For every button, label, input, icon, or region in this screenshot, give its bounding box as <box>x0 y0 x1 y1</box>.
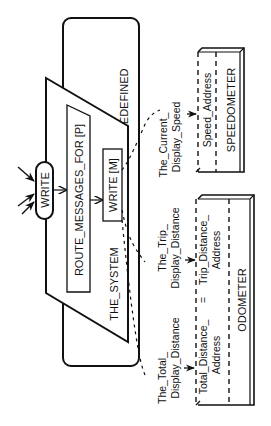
diagram-canvas: PREDEFINED THE_SYSTEM ROUTE_MESSAGES_FOR… <box>0 0 271 426</box>
the-system-label: THE_SYSTEM <box>108 247 120 320</box>
speedometer-label: SPEEDOMETER <box>225 68 237 152</box>
odometer-label: ODOMETER <box>236 268 248 332</box>
flow-current-speed: The_Current_ Display_Speed <box>157 102 196 178</box>
write-entry-label: WRITE <box>39 172 51 207</box>
write-m-label: WRITE [M] <box>107 158 119 212</box>
total-distance-field-line2: Address <box>210 336 222 375</box>
total-distance-field-line1: Total_Distance_ <box>197 319 209 394</box>
flow-total-distance: The_Total_ Display_Distance <box>156 317 194 404</box>
speed-address-field: Speed_Address <box>201 73 213 148</box>
flow-label-line1: The_Trip_ <box>156 224 168 272</box>
flow-label-line1: The_Total_ <box>156 352 168 404</box>
odometer-separator: = <box>197 297 209 303</box>
write-entry-node: WRITE <box>36 162 53 219</box>
flow-trip-distance: The_Trip_ Display_Distance <box>156 207 195 288</box>
odometer-device: Total_Distance_ Address = Trip_Distance_… <box>196 195 254 405</box>
route-messages-label: ROUTE_MESSAGES_FOR [P] <box>73 124 85 276</box>
flow-label-line2: Display_Speed <box>170 102 182 173</box>
speedometer-device: Speed_Address SPEEDOMETER <box>196 48 244 172</box>
trip-distance-field-line1: Trip_Distance_ <box>197 215 209 285</box>
trip-distance-field-line2: Address <box>210 231 222 270</box>
incoming-arrows <box>18 167 34 214</box>
flow-label-line2: Display_Distance <box>169 317 181 398</box>
flow-label-line2: Display_Distance <box>169 207 181 288</box>
flow-label-line1: The_Current_ <box>157 112 169 177</box>
